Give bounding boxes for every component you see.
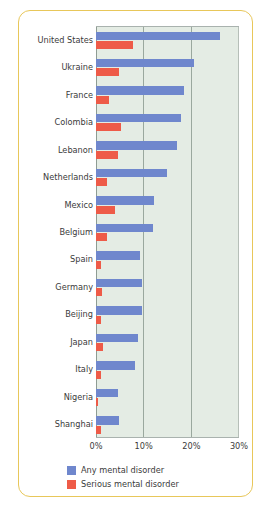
legend-swatch-icon (67, 466, 76, 475)
bar-any-mental-disorder (96, 32, 220, 41)
bar-any-mental-disorder (96, 224, 153, 233)
bar-any-mental-disorder (96, 334, 138, 343)
category-label: Spain (21, 254, 93, 264)
bar-any-mental-disorder (96, 416, 119, 425)
bar-group (96, 164, 239, 191)
bar-group (96, 412, 239, 439)
bar-serious-mental-disorder (96, 261, 101, 269)
category-label: Colombia (21, 117, 93, 127)
bar-serious-mental-disorder (96, 371, 101, 379)
legend-item: Serious mental disorder (67, 477, 237, 491)
bar-any-mental-disorder (96, 169, 167, 178)
bar-serious-mental-disorder (96, 96, 109, 104)
bar-group (96, 302, 239, 329)
bar-group (96, 82, 239, 109)
bar-group (96, 54, 239, 81)
bar-group (96, 357, 239, 384)
bar-group (96, 109, 239, 136)
bar-serious-mental-disorder (96, 178, 107, 186)
x-axis-tick-label: 10% (124, 441, 164, 451)
bar-serious-mental-disorder (96, 151, 118, 159)
chart-legend: Any mental disorderSerious mental disord… (67, 463, 237, 491)
bar-group (96, 247, 239, 274)
category-label: United States (21, 35, 93, 45)
bar-group (96, 274, 239, 301)
bar-any-mental-disorder (96, 361, 135, 370)
bar-group (96, 329, 239, 356)
bar-serious-mental-disorder (96, 41, 133, 49)
bar-serious-mental-disorder (96, 123, 121, 131)
category-label: Belgium (21, 227, 93, 237)
bar-any-mental-disorder (96, 251, 140, 260)
chart-figure-frame: United StatesUkraineFranceColombiaLebano… (18, 10, 253, 497)
bar-serious-mental-disorder (96, 288, 102, 296)
bar-group (96, 137, 239, 164)
bar-serious-mental-disorder (96, 206, 115, 214)
legend-swatch-icon (67, 480, 76, 489)
category-label: France (21, 90, 93, 100)
category-label: Beijing (21, 309, 93, 319)
bar-any-mental-disorder (96, 279, 142, 288)
category-label: Shanghai (21, 419, 93, 429)
bar-serious-mental-disorder (96, 343, 103, 351)
bar-serious-mental-disorder (96, 316, 101, 324)
bar-any-mental-disorder (96, 59, 194, 68)
bar-any-mental-disorder (96, 114, 181, 123)
bar-any-mental-disorder (96, 86, 184, 95)
bar-group (96, 384, 239, 411)
bar-serious-mental-disorder (96, 233, 107, 241)
bar-group (96, 27, 239, 54)
plot-area (96, 26, 239, 438)
bar-any-mental-disorder (96, 306, 142, 315)
category-axis: United StatesUkraineFranceColombiaLebano… (19, 26, 93, 438)
legend-label: Serious mental disorder (81, 479, 179, 489)
category-label: Netherlands (21, 172, 93, 182)
category-label: Germany (21, 282, 93, 292)
bar-serious-mental-disorder (96, 426, 101, 434)
x-axis-tick-label: 0% (76, 441, 116, 451)
legend-item: Any mental disorder (67, 463, 237, 477)
category-label: Japan (21, 337, 93, 347)
x-axis-tick-label: 20% (171, 441, 211, 451)
bar-any-mental-disorder (96, 141, 177, 150)
bar-group (96, 192, 239, 219)
category-label: Lebanon (21, 145, 93, 155)
bar-serious-mental-disorder (96, 398, 98, 406)
category-label: Nigeria (21, 392, 93, 402)
bar-any-mental-disorder (96, 196, 154, 205)
category-label: Ukraine (21, 62, 93, 72)
category-label: Italy (21, 364, 93, 374)
bar-any-mental-disorder (96, 389, 118, 398)
x-axis-tick-label: 30% (219, 441, 259, 451)
bar-serious-mental-disorder (96, 68, 119, 76)
value-axis: 0%10%20%30% (96, 441, 239, 455)
legend-label: Any mental disorder (81, 465, 164, 475)
bar-group (96, 219, 239, 246)
category-label: Mexico (21, 200, 93, 210)
